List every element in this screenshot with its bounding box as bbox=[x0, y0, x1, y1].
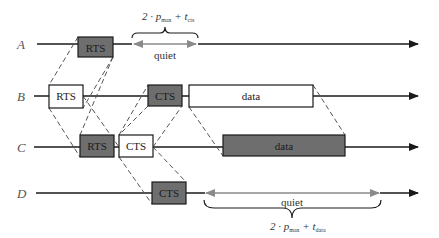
formula-a: 2 · pmax + tcts bbox=[142, 10, 195, 23]
formula-d-sub1: max bbox=[289, 227, 299, 233]
formula-a-sub1: max bbox=[161, 17, 171, 23]
frame-b-cts-label: CTS bbox=[155, 90, 175, 102]
node-label-c: C bbox=[17, 140, 26, 155]
formula-a-sub2: cts bbox=[188, 17, 195, 23]
propagation-lines bbox=[49, 37, 345, 204]
formula-a-mid: + t bbox=[172, 10, 189, 22]
formula-a-prefix: 2 · p bbox=[142, 10, 162, 22]
frame-b-data-label: data bbox=[242, 90, 260, 102]
node-label-d: D bbox=[16, 186, 27, 201]
node-label-b: B bbox=[17, 89, 25, 104]
quiet-label-d: quiet bbox=[281, 196, 303, 208]
quiet-label-a: quiet bbox=[154, 49, 176, 61]
frame-c-rts-label: RTS bbox=[87, 140, 107, 152]
formula-d-mid: + t bbox=[300, 220, 317, 232]
frame-d-cts-label: CTS bbox=[159, 187, 179, 199]
formula-d-sub2: data bbox=[316, 227, 326, 233]
frame-c-cts-label: CTS bbox=[126, 140, 146, 152]
brace-a bbox=[132, 27, 198, 38]
formula-d-prefix: 2 · p bbox=[270, 220, 290, 232]
rts-cts-timing-diagram: A B C D RTS RTS CTS data RTS bbox=[0, 0, 439, 238]
frame-c-data-label: data bbox=[275, 140, 293, 152]
formula-d: 2 · pmax + tdata bbox=[270, 220, 326, 233]
node-label-a: A bbox=[16, 37, 25, 52]
frame-b-rts-label: RTS bbox=[56, 90, 76, 102]
frame-a-rts-label: RTS bbox=[86, 42, 106, 54]
